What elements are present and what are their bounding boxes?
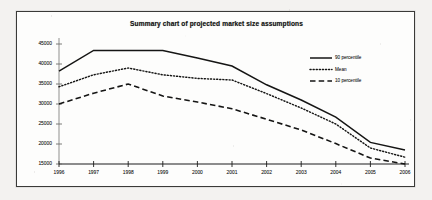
x-axis-tick-label: 2003: [289, 170, 313, 175]
y-axis-tick-label: 25000: [26, 121, 52, 126]
chart-plot-area: 1500020000250003000035000400004500019961…: [17, 12, 416, 188]
x-axis-tick-label: 2004: [324, 170, 348, 175]
x-axis-tick-label: 1996: [47, 170, 71, 175]
chart-figure-frame: Summary chart of projected market size a…: [16, 11, 415, 187]
y-axis-tick-label: 20000: [26, 141, 52, 146]
y-axis-tick-label: 45000: [26, 41, 52, 46]
x-axis-tick-label: 2005: [358, 170, 382, 175]
legend-item-label: 90 percentile: [335, 55, 361, 60]
x-axis-tick-label: 1998: [116, 170, 140, 175]
chart-svg: [17, 12, 416, 188]
x-axis-tick-label: 2000: [185, 170, 209, 175]
legend-item-label: 10 percentile: [335, 78, 361, 83]
x-axis-tick-label: 2001: [220, 170, 244, 175]
y-axis-tick-label: 15000: [26, 161, 52, 166]
y-axis-tick-label: 40000: [26, 61, 52, 66]
legend-item-label: Mean: [335, 67, 347, 72]
y-axis-tick-label: 35000: [26, 81, 52, 86]
y-axis-tick-label: 30000: [26, 101, 52, 106]
x-axis-tick-label: 1997: [82, 170, 106, 175]
x-axis-tick-label: 2002: [255, 170, 279, 175]
x-axis-tick-label: 1999: [151, 170, 175, 175]
x-axis-tick-label: 2006: [393, 170, 417, 175]
